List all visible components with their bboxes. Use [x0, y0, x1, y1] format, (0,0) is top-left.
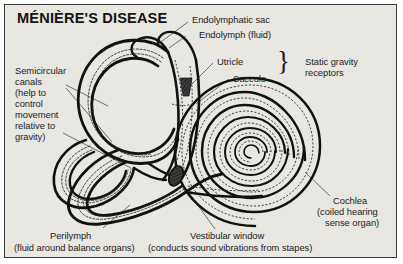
label-semicircular-canals-line2: canals: [15, 77, 42, 88]
brace-icon: }: [277, 48, 290, 75]
label-cochlea-line3: sense organ): [325, 218, 379, 229]
label-static-gravity-receptors-line1: Static gravity: [305, 57, 358, 68]
label-saccule: Saccule: [233, 74, 266, 85]
label-semicircular-canals-line1: Semicircular: [15, 66, 66, 77]
label-semicircular-canals-line4: control: [15, 99, 43, 110]
label-perilymph-line1: Perilymph: [50, 231, 91, 242]
diagram-page: MÉNIÈRE'S DISEASE Semicircular canals (h…: [0, 0, 403, 264]
label-utricle: Utricle: [217, 57, 243, 68]
label-vestibular-window-line1: Vestibular window: [190, 231, 264, 242]
label-semicircular-canals-line5: movement: [15, 110, 58, 121]
label-cochlea-line1: Cochlea: [333, 196, 367, 207]
label-vestibular-window-line2: (conducts sound vibrations from stapes): [148, 243, 312, 254]
page-title: MÉNIÈRE'S DISEASE: [17, 10, 167, 26]
label-endolymph: Endolymph (fluid): [199, 30, 271, 41]
label-static-gravity-receptors-line2: receptors: [305, 68, 344, 79]
label-cochlea-line2: (coiled hearing: [317, 207, 378, 218]
label-semicircular-canals-line3: (help to: [15, 88, 46, 99]
label-semicircular-canals-line6: relative to: [15, 121, 55, 132]
label-semicircular-canals-line7: gravity): [15, 132, 45, 143]
label-perilymph-line2: (fluid around balance organs): [14, 243, 135, 254]
label-endolymphatic-sac: Endolymphatic sac: [192, 15, 270, 26]
